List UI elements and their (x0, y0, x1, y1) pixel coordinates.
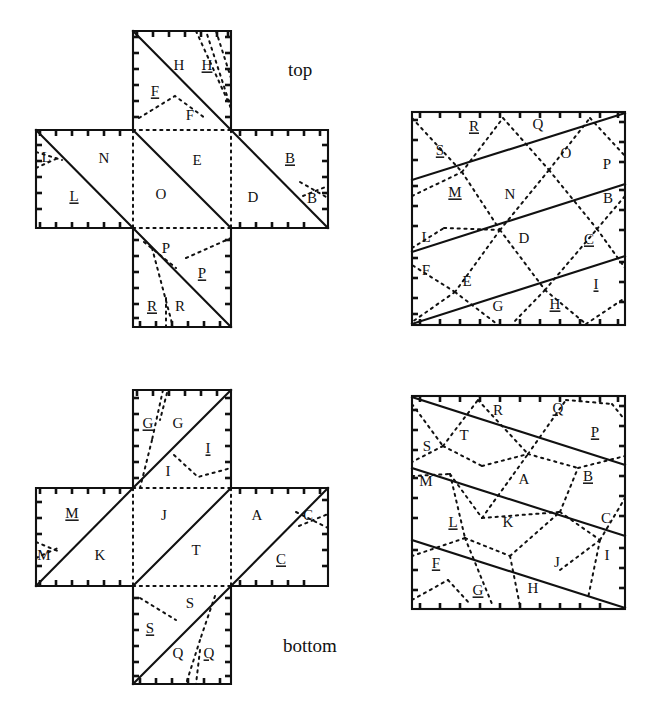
region-label: M (448, 184, 461, 200)
region-label: T (191, 542, 200, 558)
region-label: R (493, 402, 503, 418)
region-label: G (473, 582, 484, 598)
region-label: B (285, 150, 295, 166)
region-label: S (146, 620, 154, 636)
region-label: T (459, 427, 468, 443)
region-label: A (252, 507, 263, 523)
region-label: I (605, 547, 610, 563)
region-label: N (505, 186, 516, 202)
region-label: B (583, 468, 593, 484)
region-label: J (554, 554, 560, 570)
region-label: O (561, 145, 572, 161)
panel-cube-net-top: H H F F L N E B L O D B P P R R top (36, 31, 328, 327)
region-label: R (147, 298, 157, 314)
region-label: K (95, 547, 106, 563)
region-label: S (186, 595, 194, 611)
region-label: L (41, 149, 50, 165)
region-label: R (175, 298, 185, 314)
region-label: H (202, 57, 213, 73)
panel-square-tiling-top: R Q S O P M N B L D C F E I G H (412, 112, 625, 325)
figure-root: H H F F L N E B L O D B P P R R top (0, 0, 658, 719)
region-label: G (173, 415, 184, 431)
region-label: A (519, 471, 530, 487)
caption-bottom: bottom (283, 635, 337, 656)
region-label: L (421, 229, 430, 245)
region-label: R (469, 118, 479, 134)
region-label: S (423, 438, 431, 454)
region-label: M (419, 473, 432, 489)
region-label: K (503, 514, 514, 530)
region-label: S (436, 142, 444, 158)
region-label: Q (173, 645, 184, 661)
region-label: P (198, 265, 206, 281)
region-label: C (584, 231, 594, 247)
region-label: F (186, 107, 194, 123)
region-label: P (603, 156, 611, 172)
region-label: M (65, 505, 78, 521)
region-label: P (162, 240, 170, 256)
region-label: B (307, 190, 317, 206)
region-label: D (519, 230, 530, 246)
region-label: E (462, 273, 471, 289)
region-label: L (69, 188, 78, 204)
region-label: M (37, 547, 50, 563)
region-label: J (161, 507, 167, 523)
region-label: I (594, 276, 599, 292)
geometry-figure: H H F F L N E B L O D B P P R R top (0, 0, 658, 719)
region-label: H (550, 296, 561, 312)
region-label: F (151, 83, 159, 99)
region-label: G (493, 298, 504, 314)
region-label: Q (553, 400, 564, 416)
region-label: F (422, 262, 430, 278)
panel-square-tiling-bottom: R Q T P S M A B L K C I F J G H (412, 396, 625, 609)
region-label: H (174, 57, 185, 73)
region-label: O (156, 186, 167, 202)
region-label: C (303, 507, 313, 523)
region-label: D (248, 189, 259, 205)
region-label: L (448, 514, 457, 530)
region-label: G (143, 415, 154, 431)
region-label: C (601, 510, 611, 526)
caption-top: top (288, 59, 312, 80)
region-label: F (432, 555, 440, 571)
region-label: C (276, 551, 286, 567)
region-label: P (591, 424, 599, 440)
region-label: B (603, 190, 613, 206)
region-label: Q (533, 116, 544, 132)
region-label: H (528, 580, 539, 596)
region-label: N (99, 150, 110, 166)
region-label: Q (204, 645, 215, 661)
panel-cube-net-bottom: G G I I M J A C M K T C S S Q Q bottom (36, 390, 337, 684)
region-label: I (166, 463, 171, 479)
region-label: E (192, 152, 201, 168)
region-label: I (206, 440, 211, 456)
